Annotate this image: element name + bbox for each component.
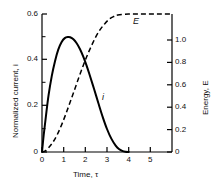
series-annotation-E: E	[133, 17, 139, 26]
x-axis-tick-label: 4	[121, 156, 137, 164]
x-axis-title: Time, τ	[73, 170, 98, 179]
y-axis-tick-label: 0.4	[16, 55, 38, 63]
x-axis-tick-label: 2	[77, 156, 93, 164]
bottom-axis-ticks	[42, 147, 150, 152]
x-axis-tick-label: 5	[142, 156, 158, 164]
y2-axis-tick-label: 0.6	[175, 81, 197, 89]
x-axis-tick-label: 3	[99, 156, 115, 164]
x-axis-tick-label: 1	[56, 156, 72, 164]
y2-axis-tick-label: 0.4	[175, 103, 197, 111]
y-axis-tick-label: 0.6	[16, 10, 38, 18]
series-line-i	[42, 37, 129, 152]
series-annotation-i: i	[102, 93, 104, 102]
y2-axis-tick-label: 0.2	[175, 126, 197, 134]
chart-figure: 0.6 0.4 0.2 0 1.0 0.8 0.6 0.4 0.2 0 0 1 …	[0, 0, 212, 187]
y-axis-tick-label: 0	[16, 148, 38, 156]
y2-axis-title: Energy, E	[201, 80, 210, 115]
y2-axis-tick-label: 0.8	[175, 58, 197, 66]
y-axis-title: Normalized current, i	[11, 64, 20, 138]
right-axis-ticks	[167, 40, 172, 152]
y2-axis-tick-label: 0	[175, 148, 197, 156]
x-axis-tick-label: 0	[34, 156, 50, 164]
y2-axis-tick-label: 1.0	[175, 36, 197, 44]
